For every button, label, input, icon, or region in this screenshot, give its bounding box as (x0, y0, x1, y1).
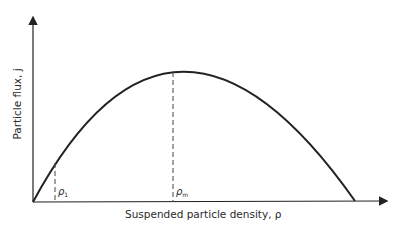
x-axis-label: Suspended particle density, ρ (125, 208, 281, 220)
rhom-marker: ρm (176, 186, 188, 198)
x-axis (33, 201, 386, 202)
y-axis-label: Particle flux, j (11, 59, 23, 149)
rho1-marker: ρ1 (58, 186, 68, 198)
flux-curve (33, 72, 355, 202)
